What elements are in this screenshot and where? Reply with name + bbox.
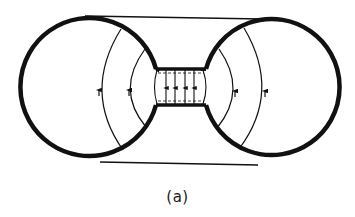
right-outer-arc	[239, 28, 262, 149]
left-sphere	[20, 18, 156, 156]
envelope-top-line	[85, 16, 262, 19]
neck-field-lines	[155, 70, 207, 104]
two-spheres-field-diagram	[0, 0, 355, 217]
field-line	[203, 70, 206, 104]
left-inner-arc	[130, 49, 146, 127]
figure-caption: (a)	[0, 188, 355, 206]
right-inner-arc	[217, 49, 233, 128]
envelope-bottom-line	[100, 162, 258, 165]
right-sphere	[206, 19, 340, 155]
left-outer-arc	[102, 29, 123, 150]
field-line	[155, 70, 158, 104]
right-sphere-field-arcs	[217, 28, 265, 149]
